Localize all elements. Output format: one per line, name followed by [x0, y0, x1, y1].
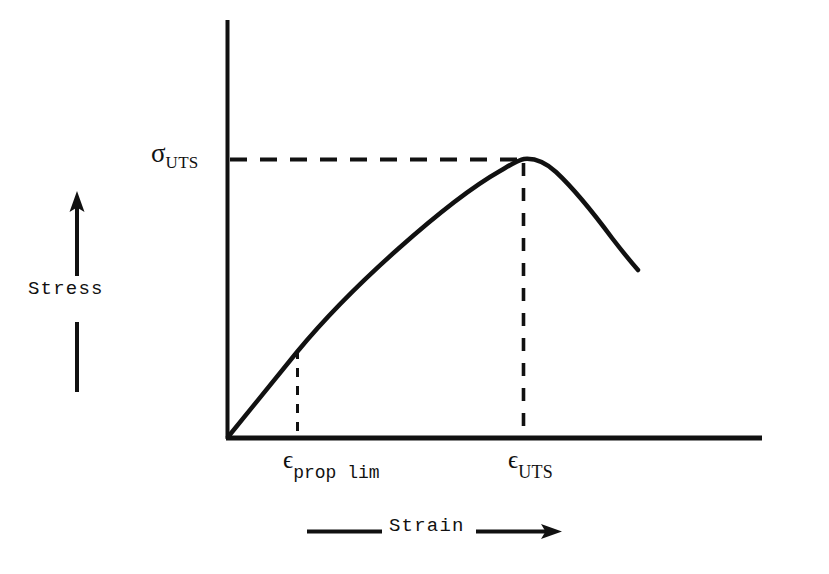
- sigma-uts-subscript: UTS: [166, 153, 199, 172]
- epsilon-symbol-prop-lim: ϵ: [283, 446, 293, 473]
- figure-background: [0, 0, 829, 574]
- epsilon-uts-label: ϵUTS: [508, 447, 553, 481]
- epsilon-prop-lim-subscript: prop lim: [293, 463, 379, 483]
- epsilon-symbol-uts: ϵ: [508, 446, 518, 473]
- strain-axis-title: Strain: [389, 517, 465, 536]
- epsilon-prop-lim-label: ϵprop lim: [283, 447, 380, 482]
- sigma-symbol: σ: [151, 138, 166, 168]
- stress-axis-title: Stress: [28, 280, 104, 299]
- stress-strain-diagram: [0, 0, 829, 574]
- sigma-uts-label: σUTS: [151, 140, 199, 171]
- epsilon-uts-subscript: UTS: [518, 462, 553, 482]
